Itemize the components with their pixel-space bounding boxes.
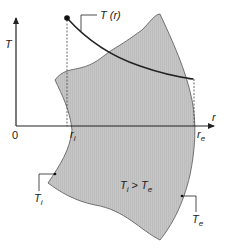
- x-axis-label: r: [212, 111, 217, 123]
- outer-temp-leader: [182, 196, 196, 212]
- outer-radius-label: re: [197, 128, 206, 143]
- inner-temp-point: [54, 173, 57, 176]
- curve-label-leader: [81, 15, 97, 31]
- curve-label: T (r): [100, 9, 121, 21]
- outer-temp-point: [181, 195, 184, 198]
- diagram-canvas: T (r) T r 0 ri re Ti Te Ti > Te: [0, 0, 228, 250]
- inner-temp-label: Ti: [34, 192, 43, 207]
- outer-temp-label: Te: [192, 213, 204, 228]
- curve-start-dot: [64, 15, 70, 21]
- temperature-distribution-diagram: T (r) T r 0 ri re Ti Te Ti > Te: [0, 0, 228, 250]
- origin-label: 0: [12, 129, 18, 141]
- solid-body-shape: [48, 14, 195, 240]
- y-axis-label: T: [5, 38, 13, 50]
